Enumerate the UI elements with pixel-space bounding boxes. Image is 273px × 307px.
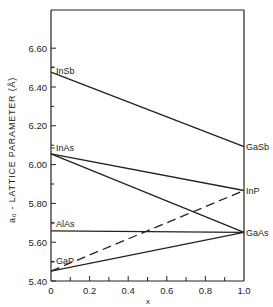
- ytick-6.40: 6.40: [29, 82, 48, 93]
- label-gap: GaP: [56, 256, 74, 266]
- label-inas: InAs: [56, 143, 75, 153]
- lattice-parameter-chart: 5.40 5.60 5.80 6.00 6.20 6.40 6.60 0 0.2…: [0, 0, 273, 307]
- series-lines: [51, 72, 244, 271]
- right-compound-labels: GaSb InP GaAs: [246, 142, 269, 238]
- ytick-6.60: 6.60: [29, 43, 48, 54]
- label-alas: AlAs: [56, 219, 75, 229]
- line-gap-gaas: [51, 232, 244, 271]
- x-axis-label: x: [146, 297, 150, 306]
- xtick-0.8: 0.8: [199, 285, 212, 296]
- plot-frame: [51, 10, 244, 281]
- ytick-5.60: 5.60: [29, 237, 48, 248]
- y-tick-labels: 5.40 5.60 5.80 6.00 6.20 6.40 6.60: [29, 43, 48, 287]
- line-inas-gaas: [51, 154, 244, 233]
- label-gaas: GaAs: [246, 228, 269, 238]
- xtick-0.2: 0.2: [83, 285, 96, 296]
- y-axis-label: a₀ - LATTICE PARAMETER (Å): [7, 77, 17, 223]
- xtick-0.4: 0.4: [122, 285, 135, 296]
- label-insb: InSb: [56, 66, 75, 76]
- ytick-5.40: 5.40: [29, 276, 48, 287]
- xtick-1.0: 1.0: [237, 285, 250, 296]
- line-inas-inp: [51, 154, 244, 191]
- ytick-6.00: 6.00: [29, 159, 48, 170]
- label-gasb: GaSb: [246, 142, 269, 152]
- y-axis-ticks: [51, 48, 56, 281]
- x-axis-ticks: [70, 276, 224, 281]
- left-compound-labels: InSb InAs AlAs GaP: [51, 66, 75, 266]
- label-inp: InP: [246, 186, 260, 196]
- x-tick-labels: 0 0.2 0.4 0.6 0.8 1.0: [48, 285, 250, 296]
- ytick-5.80: 5.80: [29, 198, 48, 209]
- line-insb-gasb: [51, 72, 244, 147]
- xtick-0: 0: [48, 285, 53, 296]
- ytick-6.20: 6.20: [29, 120, 48, 131]
- xtick-0.6: 0.6: [160, 285, 173, 296]
